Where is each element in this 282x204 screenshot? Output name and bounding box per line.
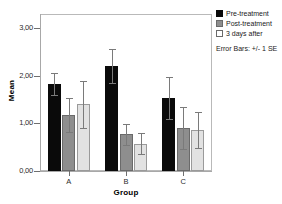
y-axis-line	[40, 14, 41, 171]
y-tick-label: 1,00	[0, 118, 33, 127]
error-bar-cap	[166, 77, 173, 78]
error-bar-cap	[51, 95, 58, 96]
x-tick	[69, 171, 70, 176]
error-bar-cap	[195, 148, 202, 149]
x-axis-title: Group	[40, 188, 212, 197]
error-bar-cap	[138, 154, 145, 155]
error-bar-line	[112, 49, 113, 83]
error-bar-cap	[180, 149, 187, 150]
legend-item[interactable]: Post-treatment	[216, 19, 272, 28]
error-bar-line	[198, 112, 199, 148]
error-bar-cap	[66, 98, 73, 99]
y-tick	[34, 171, 40, 172]
error-bar-cap	[195, 112, 202, 113]
error-bar-line	[54, 73, 55, 95]
legend-item[interactable]: 3 days after	[216, 29, 272, 38]
x-tick	[126, 171, 127, 176]
error-bar-cap	[51, 73, 58, 74]
error-bar-line	[169, 77, 170, 119]
y-tick	[34, 28, 40, 29]
x-tick-label: C	[168, 177, 198, 186]
error-bar-cap	[166, 119, 173, 120]
legend-item-label: Post-treatment	[226, 19, 272, 28]
error-bar-cap	[180, 107, 187, 108]
x-tick-label: B	[111, 177, 141, 186]
error-bar-line	[126, 124, 127, 145]
y-axis-tick-labels: 0,001,002,003,00	[0, 0, 33, 204]
bar	[48, 84, 61, 171]
error-bar-line	[183, 107, 184, 149]
y-tick-label: 2,00	[0, 71, 33, 80]
y-tick	[34, 76, 40, 77]
error-bar-cap	[123, 124, 130, 125]
error-bar-cap	[66, 132, 73, 133]
error-bar-line	[141, 133, 142, 154]
bar-chart: 0,001,002,003,00 Mean ABC Group Pre-trea…	[0, 0, 282, 204]
legend-item-label: 3 days after	[226, 29, 263, 38]
error-bar-cap	[138, 133, 145, 134]
y-tick-label: 0,00	[0, 166, 33, 175]
error-bar-cap	[123, 145, 130, 146]
legend-swatch-icon	[216, 30, 223, 37]
y-axis-title: Mean	[7, 69, 16, 113]
y-tick-label: 3,00	[0, 23, 33, 32]
error-bar-line	[83, 81, 84, 129]
x-tick	[183, 171, 184, 176]
legend-swatch-icon	[216, 20, 223, 27]
error-bar-cap	[109, 83, 116, 84]
error-bar-note: Error Bars: +/- 1 SE	[216, 45, 277, 52]
legend-item[interactable]: Pre-treatment	[216, 9, 272, 18]
error-bar-cap	[80, 128, 87, 129]
legend-item-label: Pre-treatment	[226, 9, 269, 18]
y-tick	[34, 123, 40, 124]
error-bar-cap	[80, 81, 87, 82]
legend-swatch-icon	[216, 10, 223, 17]
x-tick-label: A	[54, 177, 84, 186]
error-bar-line	[69, 98, 70, 132]
error-bar-cap	[109, 49, 116, 50]
legend: Pre-treatmentPost-treatment3 days after	[216, 9, 272, 39]
